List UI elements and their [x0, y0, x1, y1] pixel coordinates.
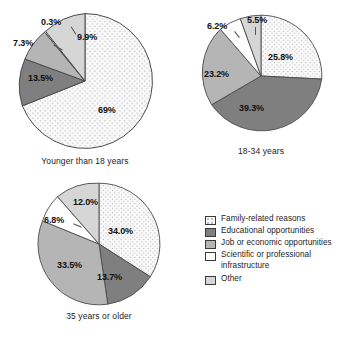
slice-label-job: 23.2% [204, 69, 229, 79]
slice-label-other: 5.5% [247, 15, 267, 25]
legend-swatch-job-icon [205, 240, 216, 249]
chart-title-younger: Younger than 18 years [14, 156, 156, 166]
legend-item-science: Scientific or professional infrastructur… [205, 250, 351, 271]
slice-label-family: 34.0% [108, 226, 133, 236]
slice-label-family: 25.8% [268, 52, 293, 62]
pie-chart-18-34: 25.8% 39.3% 23.2% 6.2% 5.5% 18-34 years [197, 12, 347, 172]
legend-label-education: Educational opportunities [221, 226, 314, 237]
legend-swatch-other-icon [205, 276, 216, 285]
legend-label-job: Job or economic opportunities [221, 238, 332, 249]
pie-chart-35-or-older: 34.0% 13.7% 33.5% 6.8% 12.0% 35 years or… [35, 180, 185, 330]
legend-label-family: Family-related reasons [221, 214, 305, 225]
legend-label-other: Other [221, 274, 242, 285]
chart-title-35-older: 35 years or older [35, 311, 163, 321]
slice-label-job: 7.3% [13, 38, 33, 48]
legend: Family-related reasons Educational oppor… [205, 214, 351, 286]
figure-canvas: 69% 13.5% 7.3% 0.3% 9.9% Younger than 18… [0, 0, 351, 338]
slice-label-education: 39.3% [239, 103, 264, 113]
slice-label-science: 6.8% [44, 215, 64, 225]
legend-item-education: Educational opportunities [205, 226, 351, 237]
legend-swatch-family-icon [205, 216, 216, 225]
slice-label-other: 12.0% [73, 197, 98, 207]
chart-title-18-34: 18-34 years [197, 146, 325, 156]
slice-label-job: 33.5% [57, 260, 82, 270]
slice-label-other: 9.9% [77, 32, 97, 42]
legend-item-family: Family-related reasons [205, 214, 351, 225]
legend-label-science: Scientific or professional infrastructur… [221, 250, 341, 271]
pie-chart-younger-than-18: 69% 13.5% 7.3% 0.3% 9.9% Younger than 18… [14, 10, 174, 172]
slice-label-family: 69% [98, 105, 116, 115]
slice-label-science: 0.3% [41, 17, 61, 27]
pie-35-older-svg [35, 180, 163, 308]
legend-swatch-education-icon [205, 228, 216, 237]
slice-label-education: 13.5% [28, 73, 53, 83]
slice-label-science: 6.2% [207, 21, 227, 31]
slice-label-education: 13.7% [97, 272, 122, 282]
legend-item-other: Other [205, 274, 351, 285]
slice-family [261, 15, 322, 79]
legend-item-job: Job or economic opportunities [205, 238, 351, 249]
leader-line-other [255, 27, 256, 35]
legend-swatch-science-icon [205, 252, 216, 261]
